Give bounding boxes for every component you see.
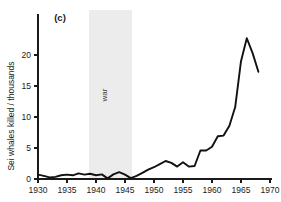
war-band-rect [89, 10, 132, 179]
x-tick-label: 1970 [261, 185, 280, 195]
y-axis-title: Sei whales killed / thousands [6, 61, 16, 170]
series-polyline [38, 38, 258, 178]
x-tick-label: 1935 [58, 185, 77, 195]
figure-panel-c: 193019351940194519501955196019651970 051… [0, 0, 281, 202]
x-tick-label: 1945 [116, 185, 135, 195]
x-axis-tick-labels: 193019351940194519501955196019651970 [29, 179, 280, 195]
data-series-sei-whales [38, 38, 258, 178]
y-tick-label: 5 [26, 143, 31, 153]
x-tick-label: 1950 [145, 185, 164, 195]
panel-label: (c) [54, 12, 66, 23]
y-tick-label: 0 [26, 174, 31, 184]
line-chart: 193019351940194519501955196019651970 051… [0, 0, 281, 202]
x-tick-label: 1940 [87, 185, 106, 195]
x-tick-label: 1930 [29, 185, 48, 195]
x-tick-label: 1955 [174, 185, 193, 195]
x-tick-label: 1960 [203, 185, 222, 195]
war-band [89, 10, 132, 179]
y-tick-label: 20 [22, 50, 32, 60]
y-tick-label: 15 [22, 81, 32, 91]
y-axis-tick-labels: 05101520 [22, 50, 38, 184]
war-band-label: war [100, 88, 109, 102]
y-tick-label: 10 [22, 112, 32, 122]
x-tick-label: 1965 [232, 185, 251, 195]
